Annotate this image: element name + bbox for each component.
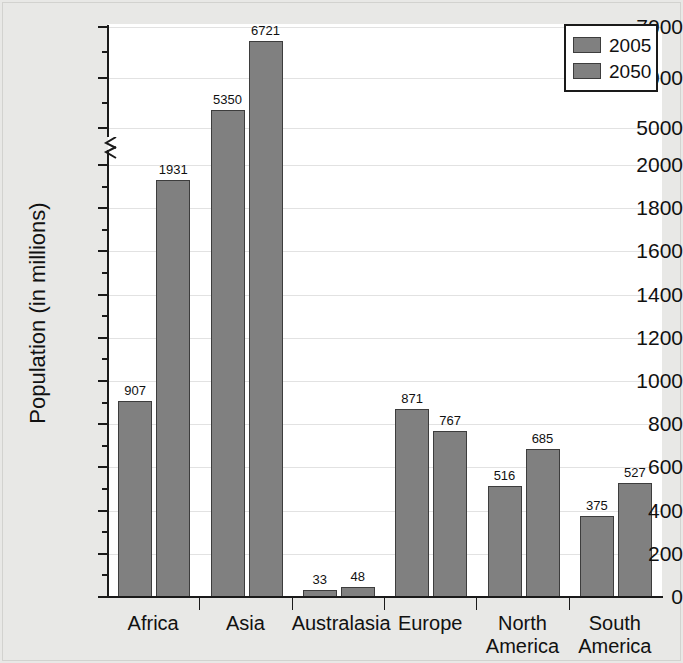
bar-value-label: 527 xyxy=(604,466,666,479)
axis-break-icon xyxy=(100,137,118,138)
y-tick-major xyxy=(98,127,108,129)
y-tick-label: 2000 xyxy=(597,154,683,175)
gridline xyxy=(108,467,662,468)
bar-value-label: 6721 xyxy=(235,24,297,37)
bar-value-label: 871 xyxy=(381,392,443,405)
y-tick-label: 1800 xyxy=(597,197,683,218)
bar xyxy=(395,409,429,597)
y-tick-major xyxy=(98,466,108,468)
bar-value-label: 48 xyxy=(327,570,389,583)
y-tick-major xyxy=(98,380,108,382)
gridline xyxy=(108,208,662,209)
y-tick-major xyxy=(98,510,108,512)
gridline xyxy=(108,381,662,382)
category-separator xyxy=(292,598,293,610)
y-tick-label: 1600 xyxy=(597,240,683,261)
category-label: Africa xyxy=(107,612,199,635)
y-tick-minor xyxy=(102,358,108,360)
y-tick-label: 1200 xyxy=(597,327,683,348)
y-tick-minor xyxy=(102,574,108,576)
gridline xyxy=(108,128,662,129)
category-label: NorthAmerica xyxy=(476,612,568,658)
legend-label-2050: 2050 xyxy=(609,62,651,81)
axis-break-icon-lower xyxy=(100,146,118,147)
gridline xyxy=(108,295,662,296)
y-tick-major xyxy=(98,164,108,166)
y-tick-major xyxy=(98,294,108,296)
y-tick-minor xyxy=(102,315,108,317)
y-tick-label: 5000 xyxy=(597,117,683,138)
category-separator xyxy=(199,598,200,610)
bar-chart-figure: 0200400600800100012001400160018002000500… xyxy=(0,0,683,663)
y-tick-label: 1000 xyxy=(597,370,683,391)
bar xyxy=(118,401,152,597)
legend-item-2050: 2050 xyxy=(573,58,649,84)
category-label: SouthAmerica xyxy=(569,612,661,658)
y-axis-line-upper xyxy=(107,25,109,137)
y-tick-minor xyxy=(102,531,108,533)
y-tick-label: 1400 xyxy=(597,284,683,305)
x-axis-categories: AfricaAsiaAustralasiaEuropeNorthAmericaS… xyxy=(107,598,663,658)
bar-value-label: 1931 xyxy=(142,163,204,176)
y-tick-minor xyxy=(102,402,108,404)
y-tick-major xyxy=(98,423,108,425)
y-tick-minor xyxy=(102,445,108,447)
legend-swatch-2050 xyxy=(573,63,601,79)
legend-swatch-2005 xyxy=(573,37,601,53)
bar-value-label: 907 xyxy=(104,384,166,397)
y-tick-minor xyxy=(102,229,108,231)
gridline xyxy=(108,338,662,339)
bar-value-label: 5350 xyxy=(197,93,259,106)
y-tick-minor xyxy=(102,186,108,188)
bar-value-label: 516 xyxy=(474,469,536,482)
category-separator xyxy=(569,598,570,610)
bar-value-label: 767 xyxy=(419,414,481,427)
bar xyxy=(249,41,283,597)
category-label: Asia xyxy=(199,612,291,635)
y-tick-major xyxy=(98,77,108,79)
gridline xyxy=(108,251,662,252)
y-tick-major xyxy=(98,26,108,28)
y-tick-major xyxy=(98,553,108,555)
bar-value-label: 685 xyxy=(512,432,574,445)
y-tick-label: 800 xyxy=(597,413,683,434)
bar-value-label: 375 xyxy=(566,499,628,512)
bar xyxy=(211,110,245,597)
category-separator xyxy=(476,598,477,610)
y-tick-major xyxy=(98,250,108,252)
category-separator xyxy=(384,598,385,610)
chart-legend: 2005 2050 xyxy=(564,24,658,92)
gridline xyxy=(108,424,662,425)
bar xyxy=(488,486,522,597)
y-axis-title: Population (in millions) xyxy=(25,103,51,523)
bar xyxy=(433,431,467,597)
y-tick-label: 200 xyxy=(597,543,683,564)
legend-label-2005: 2005 xyxy=(609,36,651,55)
y-tick-major xyxy=(98,337,108,339)
y-tick-minor xyxy=(102,488,108,490)
category-label: Europe xyxy=(384,612,476,635)
y-tick-minor xyxy=(102,272,108,274)
y-tick-major xyxy=(98,207,108,209)
legend-item-2005: 2005 xyxy=(573,32,649,58)
category-label: Australasia xyxy=(292,612,384,635)
y-tick-minor xyxy=(102,51,108,53)
y-tick-minor xyxy=(102,102,108,104)
